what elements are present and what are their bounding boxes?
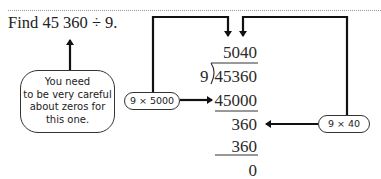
annotation-9x5000: 9 × 5000 — [124, 92, 180, 110]
callout-line: about zeros for — [21, 101, 114, 114]
first-subtrahend: 45000 — [215, 92, 258, 109]
bracket-40-to-quotient — [243, 17, 347, 115]
annotation-9x40: 9 × 40 — [318, 115, 370, 133]
zeros-warning-callout: You need to be very careful about zeros … — [20, 70, 115, 133]
callout-line: to be very careful — [21, 89, 114, 102]
quotient: 5040 — [223, 44, 257, 61]
callout-line: this one. — [21, 114, 114, 127]
first-remainder: 360 — [232, 116, 258, 133]
callout-line: You need — [21, 76, 114, 89]
final-remainder: 0 — [249, 162, 258, 179]
divisor: 9 — [200, 68, 209, 85]
dividend: 45360 — [215, 68, 258, 85]
second-subtrahend: 360 — [232, 138, 258, 155]
